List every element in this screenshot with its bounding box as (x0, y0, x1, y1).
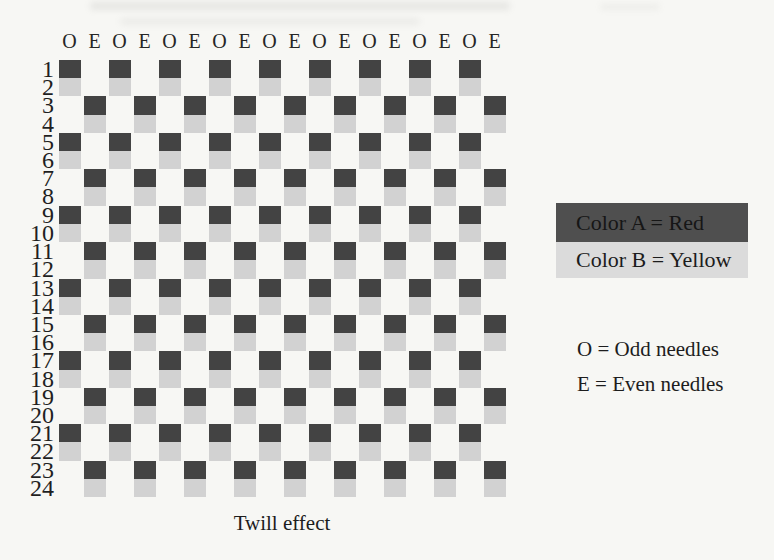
pattern-cell-color-a (59, 133, 81, 151)
pattern-cell-color-b (59, 224, 81, 242)
pattern-cell-color-a (359, 60, 381, 78)
pattern-cell-color-b (309, 151, 331, 169)
pattern-cell-color-b (259, 442, 281, 461)
pattern-cell-color-b (59, 297, 81, 315)
pattern-cell-color-b (284, 115, 306, 133)
pattern-cell-color-b (384, 333, 406, 351)
pattern-cell-color-b (209, 224, 231, 242)
pattern-cell-color-b (59, 78, 81, 96)
pattern-cell-color-a (409, 60, 431, 78)
pattern-cell-color-b (109, 442, 131, 461)
pattern-cell-color-a (184, 242, 206, 260)
pattern-cell-color-a (159, 206, 181, 224)
pattern-cell-color-a (159, 60, 181, 78)
pattern-cell-color-a (84, 169, 106, 187)
needle-header-letter: O (207, 30, 232, 52)
pattern-cell-color-a (359, 351, 381, 370)
pattern-cell-color-a (309, 279, 331, 297)
pattern-cell-color-b (384, 115, 406, 133)
pattern-cell-color-a (234, 461, 256, 479)
legend-color-a-label: Color A = Red (556, 210, 704, 236)
pattern-cell-color-b (234, 479, 256, 497)
pattern-cell-color-b (84, 333, 106, 351)
pattern-cell-color-b (409, 224, 431, 242)
needle-header-letter: E (332, 30, 357, 52)
pattern-cell-color-b (234, 187, 256, 206)
pattern-cell-color-a (59, 206, 81, 224)
pattern-cell-color-a (384, 388, 406, 406)
pattern-cell-color-a (59, 60, 81, 78)
pattern-cell-color-b (159, 151, 181, 169)
pattern-cell-color-a (459, 206, 481, 224)
pattern-cell-color-b (134, 406, 156, 424)
pattern-cell-color-b (409, 78, 431, 96)
pattern-cell-color-b (359, 442, 381, 461)
pattern-cell-color-a (484, 315, 506, 333)
pattern-cell-color-a (134, 242, 156, 260)
pattern-cell-color-a (334, 169, 356, 187)
pattern-cell-color-a (84, 315, 106, 333)
pattern-cell-color-a (109, 351, 131, 370)
needle-header-letter: E (182, 30, 207, 52)
pattern-cell-color-b (359, 78, 381, 96)
legend-color-a-swatch: Color A = Red (556, 203, 748, 242)
needle-header-letter: O (457, 30, 482, 52)
pattern-cell-color-b (59, 151, 81, 169)
pattern-cell-color-a (384, 315, 406, 333)
pattern-cell-color-a (284, 388, 306, 406)
pattern-cell-color-b (409, 442, 431, 461)
needle-header-letter: O (407, 30, 432, 52)
pattern-cell-color-a (384, 242, 406, 260)
pattern-cell-color-b (234, 406, 256, 424)
needle-header-letter: E (132, 30, 157, 52)
course-number: 24 (16, 479, 54, 497)
pattern-cell-color-a (259, 424, 281, 442)
pattern-cell-color-a (234, 169, 256, 187)
pattern-cell-color-b (159, 78, 181, 96)
needle-header-letter: O (107, 30, 132, 52)
pattern-cell-color-a (409, 424, 431, 442)
pattern-cell-color-a (359, 424, 381, 442)
pattern-cell-color-a (459, 424, 481, 442)
pattern-cell-color-a (209, 206, 231, 224)
pattern-cell-color-b (459, 151, 481, 169)
pattern-cell-color-b (209, 151, 231, 169)
pattern-cell-color-b (309, 370, 331, 388)
pattern-cell-color-b (209, 370, 231, 388)
pattern-cell-color-a (209, 133, 231, 151)
pattern-cell-color-a (259, 351, 281, 370)
pattern-cell-color-a (484, 388, 506, 406)
pattern-cell-color-a (184, 169, 206, 187)
pattern-cell-color-b (434, 260, 456, 279)
pattern-cell-color-b (234, 115, 256, 133)
pattern-cell-color-b (459, 442, 481, 461)
pattern-cell-color-a (234, 315, 256, 333)
pattern-cell-color-a (84, 242, 106, 260)
pattern-cell-color-a (259, 60, 281, 78)
pattern-cell-color-a (84, 96, 106, 115)
needle-header-letter: O (307, 30, 332, 52)
pattern-cell-color-b (284, 479, 306, 497)
pattern-cell-color-a (384, 169, 406, 187)
pattern-cell-color-a (159, 133, 181, 151)
pattern-cell-color-b (184, 187, 206, 206)
pattern-cell-color-a (384, 96, 406, 115)
pattern-cell-color-a (84, 461, 106, 479)
pattern-cell-color-a (159, 279, 181, 297)
pattern-cell-color-b (59, 442, 81, 461)
pattern-cell-color-a (334, 461, 356, 479)
pattern-cell-color-a (409, 351, 431, 370)
pattern-cell-color-b (409, 297, 431, 315)
pattern-cell-color-b (84, 406, 106, 424)
pattern-cell-color-a (59, 279, 81, 297)
pattern-cell-color-a (134, 169, 156, 187)
pattern-cell-color-b (409, 151, 431, 169)
pattern-cell-color-b (134, 333, 156, 351)
pattern-cell-color-b (209, 78, 231, 96)
pattern-cell-color-b (384, 479, 406, 497)
pattern-cell-color-a (434, 169, 456, 187)
pattern-cell-color-a (259, 133, 281, 151)
pattern-cell-color-a (234, 96, 256, 115)
pattern-cell-color-a (109, 206, 131, 224)
scanned-book-figure: OEOEOEOEOEOEOEOEOE 123456789101112131415… (0, 0, 774, 560)
